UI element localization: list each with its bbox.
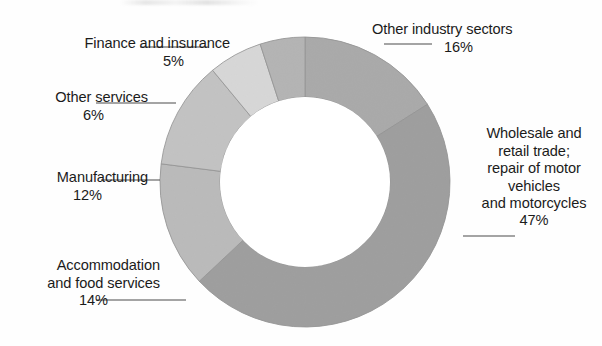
slice-label-manufacturing: Manufacturing 12% — [0, 152, 148, 222]
slice-label-wholesale-retail-trade: Wholesale and retail trade; repair of mo… — [466, 108, 602, 247]
slice-label-text: Other services — [55, 89, 148, 105]
chart-page: Other industry sectors 16% Wholesale and… — [0, 0, 602, 346]
slice-label-text: Manufacturing — [57, 169, 148, 185]
slice-value-text: 12% — [0, 187, 148, 204]
slice-label-accommodation-and-food-services: Accommodation and food services 14% — [0, 240, 160, 327]
slice-value-text: 5% — [18, 53, 230, 70]
slice-label-text: Other industry sectors — [372, 21, 513, 37]
donut-hole — [220, 97, 390, 267]
slice-value-text: 47% — [466, 212, 602, 229]
slice-value-text: 6% — [4, 107, 148, 124]
slice-label-text: Accommodation and food services — [47, 257, 160, 290]
slice-value-text: 14% — [0, 292, 160, 309]
slice-label-text: Wholesale and retail trade; repair of mo… — [482, 125, 587, 211]
slice-value-text: 16% — [372, 39, 600, 56]
slice-label-other-industry-sectors: Other industry sectors 16% — [372, 4, 600, 74]
slice-label-other-services: Other services 6% — [4, 72, 148, 142]
slice-label-text: Finance and insurance — [84, 35, 230, 51]
